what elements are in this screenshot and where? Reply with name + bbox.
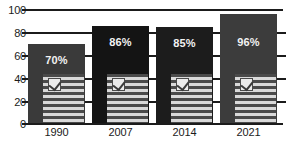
bar-1990[interactable]: 70% [28,44,85,124]
x-tick-label-2007: 2007 [92,126,149,138]
document-checklist-icon-2014 [171,74,212,124]
bar-2007[interactable]: 86% [92,26,149,124]
document-checklist-icon-1990 [43,74,84,124]
bar-chart: 100 80 60 40 20 0 70% [0,0,291,142]
x-tick-label-2021: 2021 [220,126,277,138]
checkmark-icon [176,78,189,91]
bar-2021[interactable]: 96% [220,14,277,124]
bar-value-1990: 70% [28,54,85,66]
x-tick-label-1990: 1990 [28,126,85,138]
bar-series: 70% 86% [28,0,283,124]
checkmark-icon [48,78,61,91]
bar-value-2021: 96% [220,36,277,48]
checkmark-icon [240,78,253,91]
x-axis-labels: 1990 2007 2014 2021 [28,126,283,142]
bar-value-2007: 86% [92,36,149,48]
x-axis-line [26,123,283,125]
y-axis-labels: 100 80 60 40 20 0 [0,0,26,142]
bar-value-2014: 85% [156,37,213,49]
x-tick-label-2014: 2014 [156,126,213,138]
document-checklist-icon-2007 [107,74,148,124]
checkmark-icon [112,78,125,91]
document-checklist-icon-2021 [235,74,276,124]
bar-2014[interactable]: 85% [156,27,213,124]
